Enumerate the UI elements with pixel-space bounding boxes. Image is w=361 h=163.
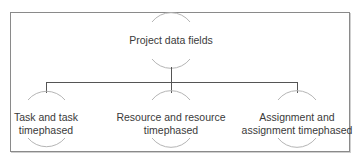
child-node-task: Task and task timephased <box>14 111 78 137</box>
root-node-label: Project data fields <box>129 34 212 47</box>
child-label-line2: assignment timephased <box>242 124 353 137</box>
child-label-line1: Task and task <box>14 111 78 124</box>
root-arc-bottom <box>152 59 190 68</box>
child-label-line1: Assignment and <box>242 111 353 124</box>
child-label-line1: Resource and resource <box>116 111 225 124</box>
connector-lines <box>0 0 361 163</box>
child-node-assignment: Assignment and assignment timephased <box>242 111 353 137</box>
root-arc-top <box>152 13 190 22</box>
child-label-line2: timephased <box>116 124 225 137</box>
child-label-line2: timephased <box>14 124 78 137</box>
child-node-resource: Resource and resource timephased <box>116 111 225 137</box>
